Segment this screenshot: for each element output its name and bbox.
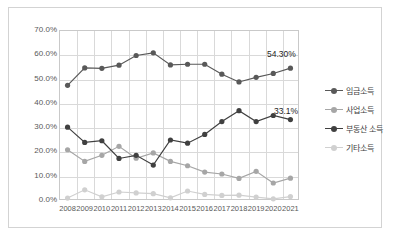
legend-label: 기타소득: [346, 142, 374, 153]
x-axis-tick-label: 2017: [214, 204, 231, 213]
data-point: [82, 65, 87, 70]
data-point: [288, 117, 293, 122]
y-axis-tick-labels: 70.0%60.0%50.0%40.0%30.0%20.0%10.0%0.0%: [9, 30, 57, 200]
legend-label: 사업소득: [346, 104, 374, 115]
y-axis-tick-label: 70.0%: [13, 26, 57, 34]
y-axis-tick-label: 50.0%: [13, 75, 57, 83]
data-point: [82, 140, 87, 145]
x-axis-tick-label: 2011: [111, 204, 127, 213]
data-point: [202, 62, 207, 67]
data-point: [99, 138, 104, 143]
data-point: [116, 144, 121, 149]
legend-item-사업소득[interactable]: 사업소득: [325, 101, 389, 118]
legend-dot: [331, 88, 337, 94]
legend-marker-icon: [325, 124, 343, 134]
data-point: [168, 159, 173, 164]
data-point: [219, 72, 224, 77]
series-기타소득: [65, 187, 293, 201]
legend-marker-icon: [325, 105, 343, 115]
y-axis-tick-label: 30.0%: [13, 123, 57, 131]
data-point: [271, 196, 276, 201]
data-point: [202, 192, 207, 197]
series-임금소득: [65, 50, 293, 88]
data-point: [151, 50, 156, 55]
x-axis-tick-labels: 2008200920102011201220132014201520162017…: [59, 204, 299, 218]
data-point: [236, 79, 241, 84]
x-axis-tick-label: 2018: [231, 204, 248, 213]
data-point: [185, 163, 190, 168]
data-point: [288, 176, 293, 181]
data-point: [65, 147, 70, 152]
data-point: [202, 169, 207, 174]
data-point: [254, 194, 259, 199]
data-point: [116, 63, 121, 68]
data-point: [134, 53, 139, 58]
legend-item-기타소득[interactable]: 기타소득: [325, 139, 389, 156]
x-axis-tick-label: 2015: [179, 204, 196, 213]
data-point: [254, 75, 259, 80]
legend-marker-icon: [325, 143, 343, 153]
data-point: [236, 176, 241, 181]
data-label-wage-2021: 54.30%: [267, 49, 296, 59]
data-point: [219, 193, 224, 198]
data-point: [151, 191, 156, 196]
data-point: [99, 194, 104, 199]
data-point: [116, 156, 121, 161]
data-point: [254, 169, 259, 174]
data-point: [254, 119, 259, 124]
x-axis-tick-label: 2013: [145, 204, 162, 213]
data-point: [134, 153, 139, 158]
data-point: [134, 190, 139, 195]
data-point: [168, 62, 173, 67]
x-axis-tick-label: 2019: [248, 204, 265, 213]
data-point: [151, 150, 156, 155]
data-point: [219, 119, 224, 124]
x-axis-tick-label: 2016: [196, 204, 213, 213]
y-axis-tick-label: 0.0%: [13, 196, 57, 204]
series-부동산 소득: [65, 108, 293, 168]
data-point: [219, 171, 224, 176]
x-axis-tick-label: 2010: [94, 204, 111, 213]
y-axis-tick-label: 60.0%: [13, 50, 57, 58]
data-point: [151, 162, 156, 167]
x-axis-tick-label: 2012: [128, 204, 145, 213]
data-point: [168, 137, 173, 142]
legend-dot: [331, 145, 337, 151]
legend-label: 부동산 소득: [346, 123, 383, 134]
x-axis-tick-label: 2020: [265, 204, 282, 213]
legend-label: 임금소득: [346, 85, 374, 96]
series-사업소득: [65, 144, 293, 186]
x-axis-tick-label: 2014: [162, 204, 179, 213]
data-point: [99, 66, 104, 71]
data-point: [271, 71, 276, 76]
x-axis-tick-label: 2008: [59, 204, 76, 213]
y-axis-tick-label: 40.0%: [13, 99, 57, 107]
data-point: [65, 125, 70, 130]
data-point: [99, 153, 104, 158]
data-point: [288, 194, 293, 199]
data-point: [116, 189, 121, 194]
data-point: [288, 66, 293, 71]
legend-dot: [331, 126, 337, 132]
legend-marker-icon: [325, 86, 343, 96]
data-point: [185, 141, 190, 146]
data-point: [65, 83, 70, 88]
x-axis-tick-label: 2021: [282, 204, 299, 213]
data-point: [65, 195, 70, 200]
legend-item-임금소득[interactable]: 임금소득: [325, 82, 389, 99]
data-point: [271, 180, 276, 185]
y-axis-tick-label: 10.0%: [13, 172, 57, 180]
data-point: [82, 159, 87, 164]
data-point: [185, 62, 190, 67]
series-line: [68, 146, 291, 183]
data-point: [185, 188, 190, 193]
data-point: [202, 132, 207, 137]
data-point: [236, 108, 241, 113]
y-axis-tick-label: 20.0%: [13, 147, 57, 155]
chart-series-layer: [59, 30, 299, 200]
legend-item-부동산 소득[interactable]: 부동산 소득: [325, 120, 389, 137]
x-axis-tick-label: 2009: [76, 204, 93, 213]
data-point: [236, 193, 241, 198]
legend-dot: [331, 107, 337, 113]
chart-frame: 70.0%60.0%50.0%40.0%30.0%20.0%10.0%0.0% …: [8, 7, 382, 228]
